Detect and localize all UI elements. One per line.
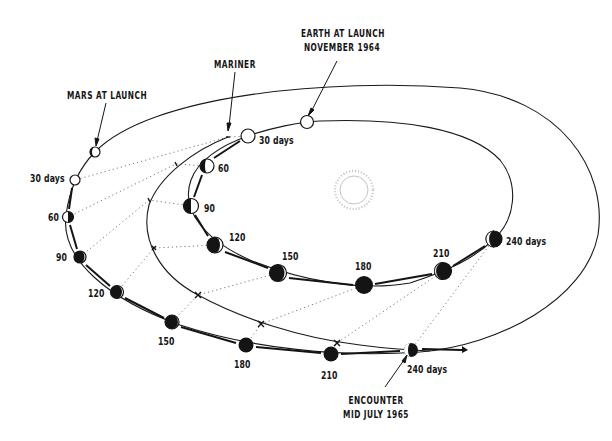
mars-orbit	[66, 85, 600, 353]
mars-label-240: 240 days	[407, 363, 447, 375]
earth-position-markers	[184, 129, 503, 294]
earth-at-launch-marker	[301, 116, 314, 129]
earth-label-150: 150	[282, 250, 299, 262]
mars-at-launch-marker	[90, 147, 100, 157]
earth-label-60: 60	[218, 162, 229, 174]
earth-at-launch-line-2: NOVEMBER 1964	[301, 41, 383, 55]
earth-label-30: 30 days	[259, 134, 294, 146]
mars-label-30: 30 days	[30, 172, 65, 184]
mars-label-60: 60	[48, 211, 59, 223]
earth-label-210: 210	[433, 247, 450, 259]
mariner-label: MARINER	[214, 58, 256, 72]
mars-label-90: 90	[56, 251, 67, 263]
earth-label-180: 180	[355, 260, 372, 272]
encounter-line-2: MID JULY 1965	[335, 408, 417, 422]
mars-label-150: 150	[158, 335, 175, 347]
mars-label-180: 180	[234, 358, 251, 370]
mars-label-120: 120	[88, 287, 105, 299]
earth-at-launch-label: EARTH AT LAUNCH NOVEMBER 1964	[301, 27, 383, 55]
mars-at-launch-label: MARS AT LAUNCH	[67, 89, 147, 103]
direction-arrowhead	[462, 346, 468, 353]
time-correspondence-lines	[68, 136, 494, 354]
earth-at-launch-line-1: EARTH AT LAUNCH	[301, 27, 383, 41]
mariner-transfer-orbit	[147, 137, 430, 351]
mars-path-segments	[69, 188, 462, 354]
encounter-label: ENCOUNTER MID JULY 1965	[335, 394, 417, 422]
sun-icon	[335, 171, 373, 209]
earth-label-90: 90	[204, 202, 215, 214]
mariner-trajectory-diagram	[0, 0, 612, 441]
encounter-line-1: ENCOUNTER	[335, 394, 417, 408]
mars-label-210: 210	[321, 369, 338, 381]
annotation-leaders	[95, 61, 407, 387]
earth-label-120: 120	[229, 231, 246, 243]
earth-label-240: 240 days	[506, 235, 546, 247]
